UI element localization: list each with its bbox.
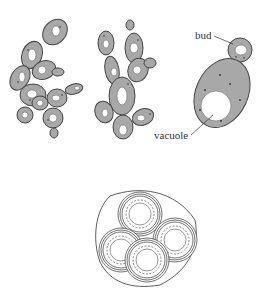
bud-leader-line: [214, 36, 233, 44]
single-budding-cell-labeled: bud vacuole: [154, 29, 261, 141]
yeast-illustration: .cell { fill: #a8a8a8; stroke: #444; str…: [0, 0, 270, 298]
bud-label: bud: [195, 29, 212, 41]
branched-budding-chain-middle: [92, 20, 156, 139]
branched-budding-chain-left: [6, 14, 84, 138]
vacuole-label: vacuole: [154, 129, 188, 141]
ascus-with-four-spores: [96, 191, 197, 287]
spore-bottom: [125, 238, 169, 282]
